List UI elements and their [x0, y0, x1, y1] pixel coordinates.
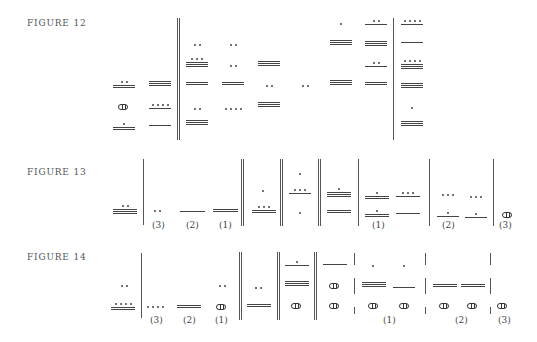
- numeral-bar: [365, 216, 389, 217]
- shell-zero-icon: [368, 303, 378, 309]
- shell-zero-icon: [216, 304, 226, 310]
- column-number: (3): [499, 220, 512, 230]
- numeral-dot: [302, 85, 304, 87]
- numeral-bar: [396, 213, 420, 214]
- numeral-bar: [186, 120, 208, 121]
- numeral-dot: [123, 123, 125, 125]
- numeral-dot: [235, 65, 237, 67]
- numeral-bar: [365, 198, 389, 199]
- numeral-bar: [285, 281, 309, 282]
- maya-numeral-figures: FIGURE 12FIGURE 13FIGURE 14 (3)(2)(1)(1)…: [0, 0, 537, 342]
- column-number: (2): [455, 315, 468, 325]
- numeral-bar: [401, 24, 423, 25]
- separator-line: [425, 307, 426, 314]
- numeral-dot: [299, 212, 301, 214]
- numeral-bar: [258, 63, 280, 64]
- separator-line: [429, 159, 430, 226]
- numeral-dot: [230, 44, 232, 46]
- numeral-dot: [194, 44, 196, 46]
- numeral-bar: [149, 85, 171, 86]
- numeral-bar: [330, 40, 352, 41]
- numeral-dot: [154, 210, 156, 212]
- numeral-bar: [396, 196, 420, 197]
- numeral-dot: [130, 303, 132, 305]
- numeral-dot: [402, 192, 404, 194]
- numeral-dot: [122, 205, 124, 207]
- numeral-bar: [362, 282, 386, 283]
- numeral-bar: [465, 217, 487, 218]
- column-number: (2): [186, 220, 199, 230]
- numeral-bar: [285, 265, 309, 266]
- numeral-bar: [327, 210, 351, 211]
- numeral-bar: [113, 209, 137, 210]
- shell-zero-icon: [399, 303, 409, 309]
- numeral-bar: [330, 82, 352, 83]
- separator-line: [282, 159, 283, 226]
- column-number: (3): [150, 315, 163, 325]
- numeral-dot: [404, 20, 406, 22]
- numeral-bar: [113, 85, 135, 86]
- numeral-bar: [222, 82, 244, 83]
- numeral-bar: [327, 194, 351, 195]
- figure-label: FIGURE 12: [27, 18, 86, 28]
- numeral-bar: [365, 84, 387, 85]
- shell-zero-icon: [329, 283, 339, 289]
- numeral-dot: [376, 192, 378, 194]
- shell-zero-icon: [502, 212, 512, 218]
- column-number: (1): [219, 220, 232, 230]
- numeral-dot: [338, 188, 340, 190]
- numeral-dot: [224, 285, 226, 287]
- numeral-bar: [401, 123, 423, 124]
- numeral-dot: [409, 60, 411, 62]
- numeral-bar: [401, 85, 423, 86]
- numeral-bar: [149, 108, 171, 109]
- numeral-dot: [235, 44, 237, 46]
- numeral-bar: [258, 65, 280, 66]
- numeral-bar: [365, 45, 387, 46]
- separator-line: [354, 278, 355, 294]
- numeral-dot: [157, 104, 159, 106]
- numeral-dot: [296, 261, 298, 263]
- shell-zero-icon: [439, 303, 449, 309]
- numeral-bar: [113, 129, 135, 130]
- numeral-bar: [213, 211, 238, 212]
- numeral-dot: [194, 108, 196, 110]
- numeral-dot: [219, 285, 221, 287]
- numeral-dot: [262, 190, 264, 192]
- numeral-bar: [149, 125, 171, 126]
- numeral-bar: [365, 82, 387, 83]
- shell-zero-icon: [467, 303, 477, 309]
- numeral-bar: [285, 283, 309, 284]
- numeral-bar: [365, 43, 387, 44]
- numeral-dot: [225, 108, 227, 110]
- numeral-dot: [258, 206, 260, 208]
- numeral-dot: [191, 58, 193, 60]
- numeral-dot: [419, 20, 421, 22]
- numeral-dot: [240, 108, 242, 110]
- numeral-dot: [470, 196, 472, 198]
- separator-line: [490, 307, 491, 314]
- numeral-dot: [196, 58, 198, 60]
- numeral-dot: [121, 285, 123, 287]
- numeral-dot: [442, 194, 444, 196]
- separator-line: [354, 253, 355, 265]
- numeral-bar: [433, 286, 457, 287]
- numeral-bar: [365, 24, 387, 25]
- separator-line: [314, 252, 315, 320]
- numeral-bar: [393, 287, 415, 288]
- separator-line: [490, 278, 491, 294]
- numeral-dot: [411, 107, 413, 109]
- numeral-bar: [186, 82, 208, 83]
- separator-line: [318, 159, 319, 226]
- numeral-dot: [157, 306, 159, 308]
- numeral-bar: [365, 196, 389, 197]
- numeral-bar: [113, 213, 137, 214]
- numeral-dot: [147, 306, 149, 308]
- separator-line: [425, 278, 426, 294]
- numeral-bar: [401, 68, 423, 69]
- numeral-dot: [447, 194, 449, 196]
- numeral-dot: [340, 23, 342, 25]
- numeral-bar: [149, 83, 171, 84]
- numeral-dot: [475, 213, 477, 215]
- numeral-bar: [213, 209, 238, 210]
